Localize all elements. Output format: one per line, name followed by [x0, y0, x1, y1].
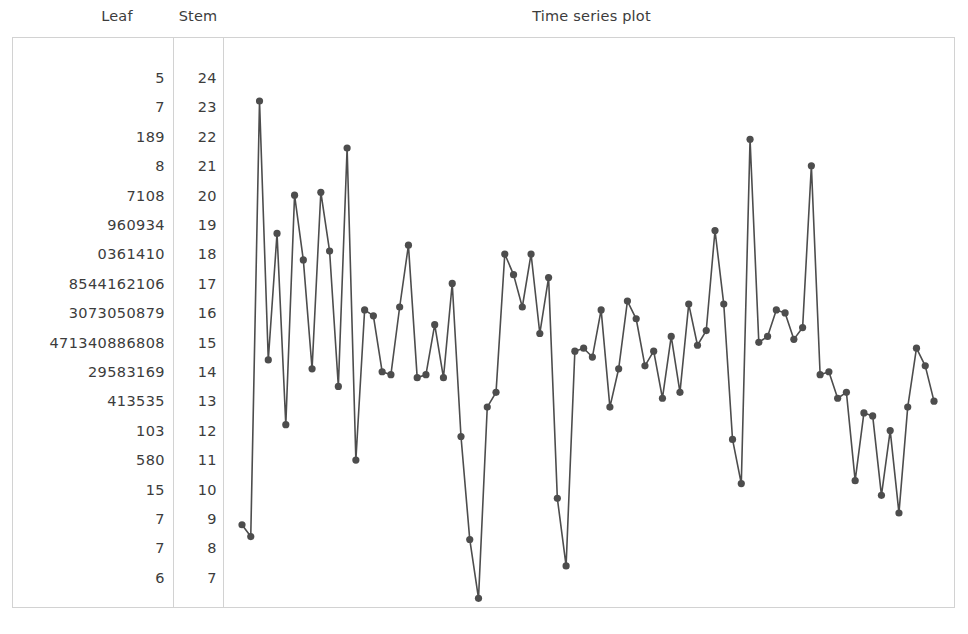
time-series-panel — [224, 38, 954, 607]
data-point — [764, 333, 771, 340]
leaf-value: 7 — [13, 93, 165, 122]
data-point — [308, 365, 315, 372]
data-point — [475, 595, 482, 602]
data-point — [554, 495, 561, 502]
stem-value: 13 — [179, 387, 217, 416]
data-point — [335, 383, 342, 390]
data-point — [685, 300, 692, 307]
data-point — [405, 242, 412, 249]
stem-value: 20 — [179, 182, 217, 211]
data-point — [755, 339, 762, 346]
stem-value: 9 — [179, 505, 217, 534]
data-point — [563, 562, 570, 569]
data-point — [738, 480, 745, 487]
leaf-value: 3073050879 — [13, 299, 165, 328]
data-point — [773, 306, 780, 313]
data-point — [624, 298, 631, 305]
data-point — [300, 256, 307, 263]
data-point — [729, 436, 736, 443]
data-point — [720, 300, 727, 307]
time-series-markers — [238, 97, 937, 602]
data-point — [449, 280, 456, 287]
data-point — [370, 312, 377, 319]
leaf-value: 15 — [13, 476, 165, 505]
stem-and-leaf-panel: 5247231892282171082096093419036141018854… — [13, 38, 224, 607]
leaf-value: 7 — [13, 534, 165, 563]
data-point — [825, 368, 832, 375]
data-point — [878, 492, 885, 499]
data-point — [282, 421, 289, 428]
data-point — [571, 348, 578, 355]
data-point — [615, 365, 622, 372]
data-point — [466, 536, 473, 543]
leaf-value: 413535 — [13, 387, 165, 416]
stem-value: 23 — [179, 93, 217, 122]
leaf-value: 580 — [13, 446, 165, 475]
leaf-value: 7 — [13, 505, 165, 534]
data-point — [326, 247, 333, 254]
data-point — [633, 315, 640, 322]
time-series-line — [242, 101, 934, 598]
data-point — [790, 336, 797, 343]
data-point — [422, 371, 429, 378]
data-point — [265, 356, 272, 363]
data-point — [317, 189, 324, 196]
data-point — [808, 162, 815, 169]
column-header-stem: Stem — [176, 8, 220, 24]
stem-value: 21 — [179, 152, 217, 181]
data-point — [492, 389, 499, 396]
column-header-leaf: Leaf — [82, 8, 152, 24]
data-point — [361, 306, 368, 313]
stem-value: 17 — [179, 270, 217, 299]
data-point — [273, 230, 280, 237]
data-point — [527, 250, 534, 257]
leaf-value: 471340886808 — [13, 329, 165, 358]
leaf-value: 189 — [13, 123, 165, 152]
stem-value: 15 — [179, 329, 217, 358]
data-point — [510, 271, 517, 278]
data-point — [895, 509, 902, 516]
data-point — [291, 192, 298, 199]
stem-leaf-timeseries-figure: Leaf Stem Time series plot 5247231892282… — [0, 0, 968, 634]
data-point — [589, 353, 596, 360]
data-point — [676, 389, 683, 396]
leaf-value: 29583169 — [13, 358, 165, 387]
data-point — [379, 368, 386, 375]
leaf-value: 5 — [13, 64, 165, 93]
stem-value: 19 — [179, 211, 217, 240]
figure-frame: 5247231892282171082096093419036141018854… — [12, 37, 955, 608]
data-point — [598, 306, 605, 313]
leaf-value: 7108 — [13, 182, 165, 211]
data-point — [869, 412, 876, 419]
stem-value: 18 — [179, 240, 217, 269]
time-series-chart — [224, 38, 954, 607]
data-point — [887, 427, 894, 434]
data-point — [238, 521, 245, 528]
data-point — [256, 97, 263, 104]
data-point — [606, 403, 613, 410]
leaf-value: 8 — [13, 152, 165, 181]
stem-value: 16 — [179, 299, 217, 328]
data-point — [387, 371, 394, 378]
leaf-value: 960934 — [13, 211, 165, 240]
data-point — [501, 250, 508, 257]
stem-value: 11 — [179, 446, 217, 475]
stem-value: 7 — [179, 564, 217, 593]
stem-value: 10 — [179, 476, 217, 505]
plot-title: Time series plot — [228, 8, 955, 24]
data-point — [799, 324, 806, 331]
data-point — [659, 395, 666, 402]
leaf-value: 8544162106 — [13, 270, 165, 299]
data-point — [922, 362, 929, 369]
data-point — [484, 403, 491, 410]
data-point — [545, 274, 552, 281]
data-point — [843, 389, 850, 396]
data-point — [930, 398, 937, 405]
data-point — [860, 409, 867, 416]
data-point — [396, 303, 403, 310]
stem-value: 24 — [179, 64, 217, 93]
stem-value: 14 — [179, 358, 217, 387]
stem-value: 22 — [179, 123, 217, 152]
leaf-value: 6 — [13, 564, 165, 593]
data-point — [817, 371, 824, 378]
